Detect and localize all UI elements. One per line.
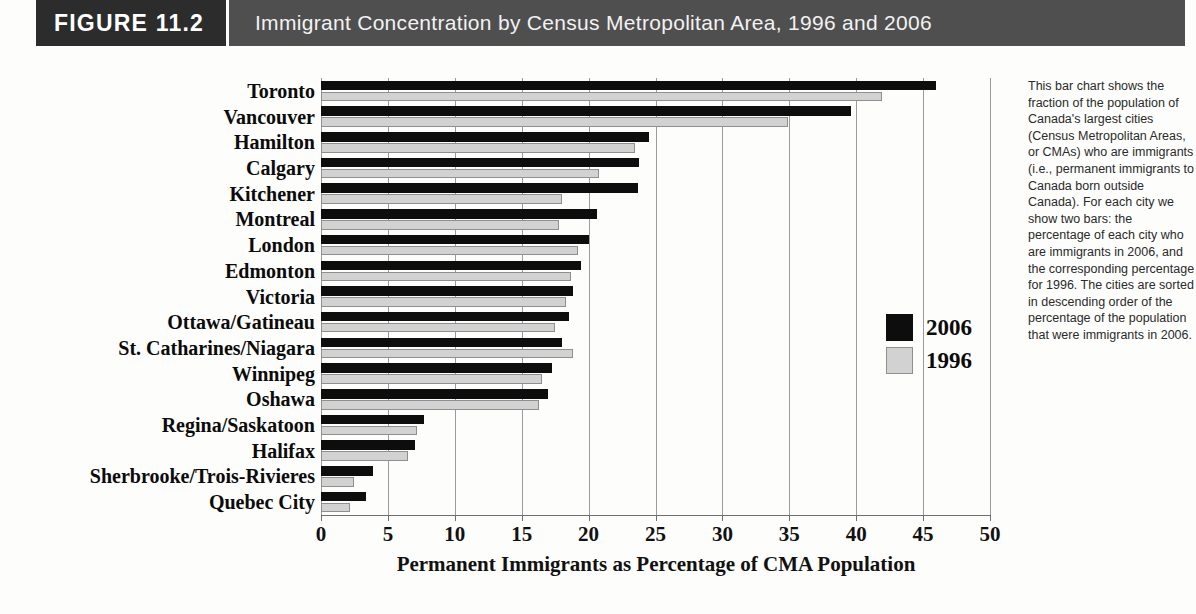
bar-2006 (321, 209, 597, 219)
category-label-st-catharines-niagara: St. Catharines/Niagara (118, 338, 315, 358)
bar-2006 (321, 106, 851, 116)
x-tick-50 (990, 515, 991, 521)
x-tick-label-15: 15 (511, 522, 532, 547)
x-tick-25 (656, 515, 657, 521)
bar-2006 (321, 312, 569, 322)
bar-1996 (321, 297, 566, 307)
bar-group (321, 492, 990, 513)
category-label-edmonton: Edmonton (225, 261, 315, 281)
category-label-halifax: Halifax (252, 441, 315, 461)
category-label-kitchener: Kitchener (229, 184, 315, 204)
chart-legend: 2006 1996 (886, 314, 1006, 380)
legend-swatch-1996 (886, 347, 913, 374)
x-tick-label-40: 40 (846, 522, 867, 547)
category-label-ottawa-gatineau: Ottawa/Gatineau (167, 312, 315, 332)
bar-2006 (321, 132, 649, 142)
bar-1996 (321, 272, 571, 282)
legend-swatch-2006 (886, 314, 913, 341)
bar-group (321, 81, 990, 102)
bar-group (321, 183, 990, 204)
x-tick-0 (321, 515, 322, 521)
bar-1996 (321, 503, 350, 513)
figure-title: Immigrant Concentration by Census Metrop… (229, 0, 1185, 46)
legend-label-1996: 1996 (926, 348, 972, 374)
bar-1996 (321, 117, 788, 127)
bar-2006 (321, 183, 638, 193)
category-label-victoria: Victoria (246, 287, 315, 307)
bar-2006 (321, 261, 581, 271)
bar-1996 (321, 400, 539, 410)
bar-2006 (321, 158, 639, 168)
bar-1996 (321, 194, 562, 204)
category-label-calgary: Calgary (246, 158, 315, 178)
chart-region: TorontoVancouverHamiltonCalgaryKitchener… (0, 46, 1010, 614)
x-tick-label-10: 10 (444, 522, 465, 547)
bar-1996 (321, 451, 408, 461)
x-tick-30 (722, 515, 723, 521)
bar-group (321, 235, 990, 256)
bar-group (321, 415, 990, 436)
bar-1996 (321, 477, 354, 487)
side-caption-text: This bar chart shows the fraction of the… (1028, 78, 1196, 438)
x-tick-label-50: 50 (980, 522, 1001, 547)
bar-2006 (321, 338, 562, 348)
category-axis-labels: TorontoVancouverHamiltonCalgaryKitchener… (0, 78, 315, 515)
category-label-vancouver: Vancouver (224, 107, 315, 127)
bar-2006 (321, 286, 573, 296)
header-left-spacer (0, 0, 36, 46)
bar-group (321, 389, 990, 410)
x-tick-label-45: 45 (913, 522, 934, 547)
figure-header-band: FIGURE 11.2 Immigrant Concentration by C… (0, 0, 1185, 46)
bar-1996 (321, 92, 882, 102)
x-tick-10 (455, 515, 456, 521)
bar-2006 (321, 466, 373, 476)
bar-1996 (321, 220, 559, 230)
bar-2006 (321, 81, 936, 91)
bar-1996 (321, 143, 635, 153)
gridline-50 (990, 78, 991, 515)
bar-group (321, 261, 990, 282)
category-label-winnipeg: Winnipeg (232, 364, 315, 384)
plot-area (321, 78, 990, 515)
bar-1996 (321, 323, 555, 333)
category-label-regina-saskatoon: Regina/Saskatoon (162, 415, 315, 435)
category-label-montreal: Montreal (235, 209, 315, 229)
bar-1996 (321, 169, 599, 179)
x-tick-label-5: 5 (383, 522, 394, 547)
bar-2006 (321, 415, 424, 425)
x-tick-label-30: 30 (712, 522, 733, 547)
category-label-oshawa: Oshawa (246, 389, 315, 409)
category-label-london: London (248, 235, 315, 255)
legend-entry-1996: 1996 (886, 347, 1006, 374)
x-axis-title: Permanent Immigrants as Percentage of CM… (321, 552, 991, 577)
x-tick-45 (923, 515, 924, 521)
bar-1996 (321, 349, 573, 359)
bar-1996 (321, 426, 417, 436)
x-tick-20 (589, 515, 590, 521)
legend-label-2006: 2006 (926, 315, 972, 341)
bar-1996 (321, 374, 542, 384)
bar-group (321, 466, 990, 487)
legend-entry-2006: 2006 (886, 314, 1006, 341)
x-tick-label-25: 25 (645, 522, 666, 547)
category-label-sherbrooke-trois-rivieres: Sherbrooke/Trois-Rivieres (90, 466, 315, 486)
bar-2006 (321, 235, 589, 245)
bar-1996 (321, 246, 578, 256)
x-tick-35 (789, 515, 790, 521)
bar-group (321, 440, 990, 461)
bar-group (321, 106, 990, 127)
x-tick-label-0: 0 (316, 522, 327, 547)
bar-group (321, 158, 990, 179)
x-tick-40 (856, 515, 857, 521)
bar-2006 (321, 363, 552, 373)
bar-2006 (321, 440, 415, 450)
category-label-toronto: Toronto (247, 81, 315, 101)
figure-number-tag: FIGURE 11.2 (36, 0, 226, 46)
x-tick-label-35: 35 (779, 522, 800, 547)
x-tick-15 (522, 515, 523, 521)
x-tick-5 (388, 515, 389, 521)
category-label-quebec-city: Quebec City (209, 492, 315, 512)
bar-2006 (321, 389, 548, 399)
bar-2006 (321, 492, 366, 502)
category-label-hamilton: Hamilton (234, 132, 315, 152)
